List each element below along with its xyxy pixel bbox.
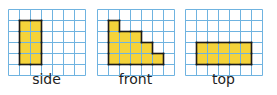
filled-cell	[20, 54, 31, 65]
filled-cell	[120, 54, 131, 65]
filled-cell	[109, 43, 120, 54]
filled-cell	[241, 54, 252, 65]
filled-cell	[131, 43, 142, 54]
front-view-label: front	[97, 70, 174, 88]
front-grid-svg	[97, 9, 175, 76]
filled-cell	[131, 32, 142, 43]
filled-cell	[20, 32, 31, 43]
filled-cell	[120, 32, 131, 43]
side-view	[8, 9, 85, 75]
filled-cell	[153, 54, 164, 65]
filled-cell	[20, 21, 31, 32]
filled-cell	[109, 54, 120, 65]
filled-cell	[142, 54, 153, 65]
filled-cell	[219, 43, 230, 54]
filled-cell	[230, 54, 241, 65]
filled-cell	[142, 43, 153, 54]
side-view-grid	[8, 9, 85, 75]
filled-cell	[197, 43, 208, 54]
filled-cell	[20, 43, 31, 54]
side-grid-svg	[8, 9, 86, 76]
top-grid-svg	[185, 9, 263, 76]
filled-cell	[241, 43, 252, 54]
filled-cell	[131, 54, 142, 65]
filled-cell	[219, 54, 230, 65]
filled-cell	[208, 43, 219, 54]
side-view-label: side	[8, 70, 85, 88]
filled-cell	[31, 32, 42, 43]
filled-cell	[31, 21, 42, 32]
filled-cell	[109, 21, 120, 32]
front-view	[97, 9, 174, 75]
front-view-grid	[97, 9, 174, 75]
top-view-grid	[185, 9, 262, 75]
filled-cell	[31, 43, 42, 54]
filled-cell	[208, 54, 219, 65]
filled-cell	[230, 43, 241, 54]
filled-cell	[31, 54, 42, 65]
filled-cell	[197, 54, 208, 65]
filled-cell	[120, 43, 131, 54]
top-view-label: top	[185, 70, 262, 88]
filled-cell	[109, 32, 120, 43]
top-view	[185, 9, 262, 75]
